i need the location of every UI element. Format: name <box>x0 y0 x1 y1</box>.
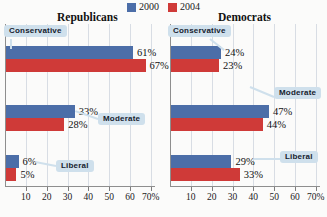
bar-2000-conservative <box>171 46 221 59</box>
axis-tick <box>47 187 48 191</box>
axis-tick-label: 10 <box>186 192 196 202</box>
callout-tail <box>254 158 280 160</box>
bar-value-label: 29% <box>235 155 254 168</box>
axis-tick-label: 60 <box>125 192 135 202</box>
axis-tick-label: 30 <box>228 192 238 202</box>
panel-title-republicans: Republicans <box>57 11 118 23</box>
bar-2004-conservative <box>171 59 219 72</box>
axis-tick-label: 20 <box>42 192 52 202</box>
bar-2004-moderate <box>6 118 64 131</box>
callout-tail <box>10 39 12 49</box>
category-callout-liberal: Liberal <box>280 151 318 163</box>
legend-label-2004: 2004 <box>180 2 200 12</box>
axis-tick <box>151 187 152 191</box>
category-callout-moderate: Moderate <box>98 113 145 125</box>
bar-value-label: 24% <box>225 46 244 59</box>
axis-tick-label: 50 <box>269 192 279 202</box>
chart-panel-democrats: 10203040506070%24%47%29%23%44%33%Conserv… <box>168 24 325 194</box>
axis-tick-label: 40 <box>249 192 259 202</box>
bar-2000-conservative <box>6 46 133 59</box>
bar-value-label: 47% <box>273 105 292 118</box>
x-axis-line <box>5 186 155 187</box>
panel-title-democrats: Democrats <box>218 11 271 23</box>
chart-panel-republicans: 10203040506070%61%33%6%67%28%5%Conservat… <box>3 24 160 194</box>
axis-tick <box>274 187 275 191</box>
category-callout-conservative: Conservative <box>168 25 231 37</box>
axis-tick-label: 60 <box>290 192 300 202</box>
axis-tick-label: 40 <box>84 192 94 202</box>
axis-tick-label: 30 <box>63 192 73 202</box>
axis-tick <box>109 187 110 191</box>
axis-tick-label: 10 <box>21 192 31 202</box>
category-callout-moderate: Moderate <box>274 87 321 99</box>
bar-2004-liberal <box>171 168 240 181</box>
axis-tick-label: 20 <box>207 192 217 202</box>
legend-label-2000: 2000 <box>139 2 159 12</box>
category-callout-liberal: Liberal <box>56 160 94 172</box>
axis-tick <box>295 187 296 191</box>
legend-swatch-2000 <box>127 3 136 12</box>
bar-value-label: 61% <box>137 46 156 59</box>
bar-value-label: 44% <box>267 118 286 131</box>
axis-tick <box>130 187 131 191</box>
bar-value-label: 5% <box>20 168 34 181</box>
axis-tick <box>253 187 254 191</box>
bar-value-label: 67% <box>150 59 169 72</box>
bar-2000-moderate <box>171 105 269 118</box>
axis-tick-label: 70% <box>307 192 324 202</box>
bar-2000-moderate <box>6 105 75 118</box>
axis-tick <box>88 187 89 191</box>
legend-item-2004: 2004 <box>168 2 200 12</box>
axis-tick <box>316 187 317 191</box>
axis-tick <box>212 187 213 191</box>
bar-2000-liberal <box>171 155 231 168</box>
legend-swatch-2004 <box>168 3 177 12</box>
legend-item-2000: 2000 <box>127 2 159 12</box>
axis-tick-label: 70% <box>142 192 159 202</box>
chart-legend: 2000 2004 <box>0 1 327 13</box>
bar-2004-conservative <box>6 59 146 72</box>
bar-2000-liberal <box>6 155 19 168</box>
axis-tick <box>233 187 234 191</box>
chart-root: 2000 2004 Republicans Democrats 10203040… <box>0 0 327 217</box>
bar-value-label: 28% <box>68 118 87 131</box>
category-callout-conservative: Conservative <box>4 25 67 37</box>
bar-2004-liberal <box>6 168 16 181</box>
axis-tick <box>191 187 192 191</box>
axis-tick <box>68 187 69 191</box>
bar-2004-moderate <box>171 118 263 131</box>
bar-value-label: 33% <box>244 168 263 181</box>
axis-tick-label: 50 <box>104 192 114 202</box>
axis-tick <box>26 187 27 191</box>
bar-value-label: 23% <box>223 59 242 72</box>
x-axis-line <box>170 186 320 187</box>
